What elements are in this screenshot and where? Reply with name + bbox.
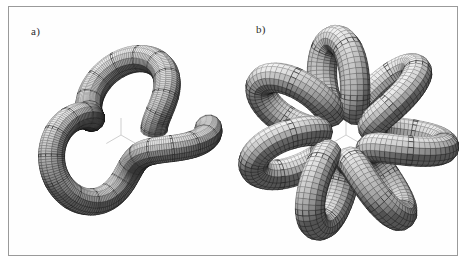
figure-frame: a) b) [8,6,458,256]
knot-rendering-a [9,7,234,257]
panel-a: a) [9,7,234,257]
knot-rendering-b [234,7,459,257]
panel-b: b) [234,7,459,257]
panel-label-a: a) [31,25,40,37]
figure-container: a) b) [0,0,470,271]
panel-label-b: b) [256,23,266,35]
